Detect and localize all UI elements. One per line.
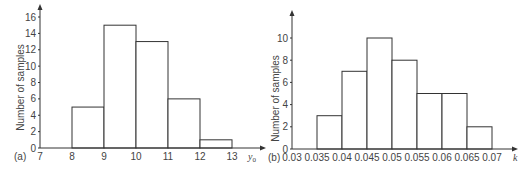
x-axis-title: k — [513, 152, 518, 163]
x-tick-label: 0.035 — [304, 152, 329, 163]
y-tick-label: 0 — [30, 143, 36, 154]
histogram-bar — [317, 116, 342, 149]
histogram-bar — [72, 107, 104, 148]
x-tick-label: 0.04 — [332, 152, 352, 163]
x-tick-label: 10 — [130, 151, 142, 162]
y-tick-label: 8 — [282, 55, 288, 66]
x-tick-label: 0.055 — [404, 152, 429, 163]
histogram-bar — [136, 42, 168, 148]
histogram-figure: 024681012141678910111213(a)Number of sam… — [0, 0, 530, 169]
x-tick-label: 0.05 — [382, 152, 402, 163]
y-tick-label: 16 — [25, 12, 37, 23]
y-axis-title: Number of samples — [15, 44, 26, 131]
y-tick-label: 10 — [277, 33, 289, 44]
histogram-bar — [168, 99, 200, 148]
histogram-bar — [104, 25, 136, 148]
x-tick-label: 0.03 — [282, 152, 302, 163]
panel-label: (b) — [268, 152, 280, 163]
histogram-bar — [392, 60, 417, 149]
x-tick-label: 0.06 — [432, 152, 452, 163]
y-axis-arrow-icon — [38, 4, 43, 10]
y-tick-label: 4 — [30, 110, 36, 121]
x-axis-arrow-icon — [260, 146, 266, 151]
panel-label: (a) — [14, 151, 26, 162]
x-tick-label: 0.065 — [454, 152, 479, 163]
y-tick-label: 10 — [25, 61, 37, 72]
y-tick-label: 2 — [30, 126, 36, 137]
histogram-bar — [342, 71, 367, 149]
x-tick-label: 8 — [69, 151, 75, 162]
histogram-bar — [417, 94, 442, 150]
y-tick-label: 12 — [25, 44, 37, 55]
y-axis-arrow-icon — [290, 10, 295, 16]
y-tick-label: 8 — [30, 77, 36, 88]
x-tick-label: 0.07 — [482, 152, 502, 163]
x-tick-label: 12 — [194, 151, 206, 162]
y-tick-label: 6 — [30, 93, 36, 104]
y-tick-label: 2 — [282, 121, 288, 132]
y-tick-label: 4 — [282, 99, 288, 110]
x-tick-label: 7 — [37, 151, 43, 162]
x-axis-arrow-icon — [512, 147, 518, 152]
x-axis-title: y0 — [247, 151, 256, 164]
histogram-bar — [200, 140, 232, 148]
y-tick-label: 14 — [25, 28, 37, 39]
histogram-bar — [467, 127, 492, 149]
x-tick-label: 11 — [163, 151, 174, 162]
histogram-bar — [442, 94, 467, 150]
histogram-bar — [367, 38, 392, 149]
y-axis-title: Number of samples — [270, 55, 281, 142]
x-tick-label: 13 — [226, 151, 238, 162]
x-tick-label: 9 — [101, 151, 107, 162]
x-tick-label: 0.045 — [354, 152, 379, 163]
y-tick-label: 6 — [282, 77, 288, 88]
